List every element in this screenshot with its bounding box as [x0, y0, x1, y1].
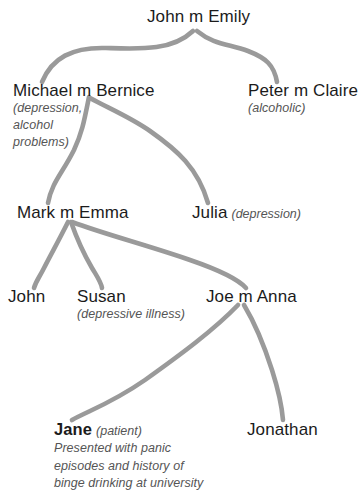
person-description-jane-line3: binge drinking at university — [54, 475, 203, 491]
person-note-susan: (depressive illness) — [77, 306, 185, 322]
person-node-michael-bernice[interactable]: Michael m Bernice (depression, alcohol p… — [13, 82, 155, 150]
connector-joe-to-jonathan — [244, 305, 283, 420]
person-name-jane: Jane — [54, 420, 92, 438]
person-node-jonathan[interactable]: Jonathan — [247, 421, 318, 438]
person-name-julia: Julia — [192, 203, 227, 222]
person-node-mark-emma[interactable]: Mark m Emma — [17, 204, 129, 221]
person-node-john-jr[interactable]: John — [8, 288, 45, 305]
person-node-john-emily[interactable]: John m Emily — [147, 8, 250, 25]
person-node-jane[interactable]: Jane(patient) Presented with panic episo… — [54, 421, 203, 491]
person-name-peter-claire: Peter m Claire — [248, 81, 358, 100]
person-name-john-jr: John — [8, 287, 45, 306]
person-node-peter-claire[interactable]: Peter m Claire (alcoholic) — [248, 82, 358, 116]
genogram-diagram: John m Emily Michael m Bernice (depressi… — [0, 0, 363, 504]
person-name-susan: Susan — [77, 287, 126, 306]
person-note-julia: (depression) — [231, 207, 300, 221]
person-node-susan[interactable]: Susan (depressive illness) — [77, 288, 185, 322]
person-name-mark-emma: Mark m Emma — [17, 203, 129, 222]
person-node-joe-anna[interactable]: Joe m Anna — [206, 288, 297, 305]
person-name-john-emily: John m Emily — [147, 7, 250, 26]
connector-john-emily-to-michael — [42, 31, 193, 82]
person-name-jonathan: Jonathan — [247, 420, 318, 439]
person-name-michael-bernice: Michael m Bernice — [13, 81, 155, 100]
connector-john-emily-to-peter — [197, 31, 277, 82]
person-note-jane-patient: (patient) — [96, 424, 142, 438]
person-note-peter-claire: (alcoholic) — [248, 100, 358, 116]
person-note-michael-line3: problems) — [13, 134, 155, 150]
person-note-michael-line2: alcohol — [13, 117, 155, 133]
person-description-jane-line1: Presented with panic — [54, 440, 203, 456]
connector-mark-to-john — [34, 222, 68, 288]
person-description-jane-line2: episodes and history of — [54, 458, 203, 474]
person-description-jane: Presented with panic episodes and histor… — [54, 440, 203, 491]
person-name-joe-anna: Joe m Anna — [206, 287, 297, 306]
person-node-julia[interactable]: Julia(depression) — [192, 204, 301, 221]
person-note-michael-line1: (depression, — [13, 100, 155, 116]
